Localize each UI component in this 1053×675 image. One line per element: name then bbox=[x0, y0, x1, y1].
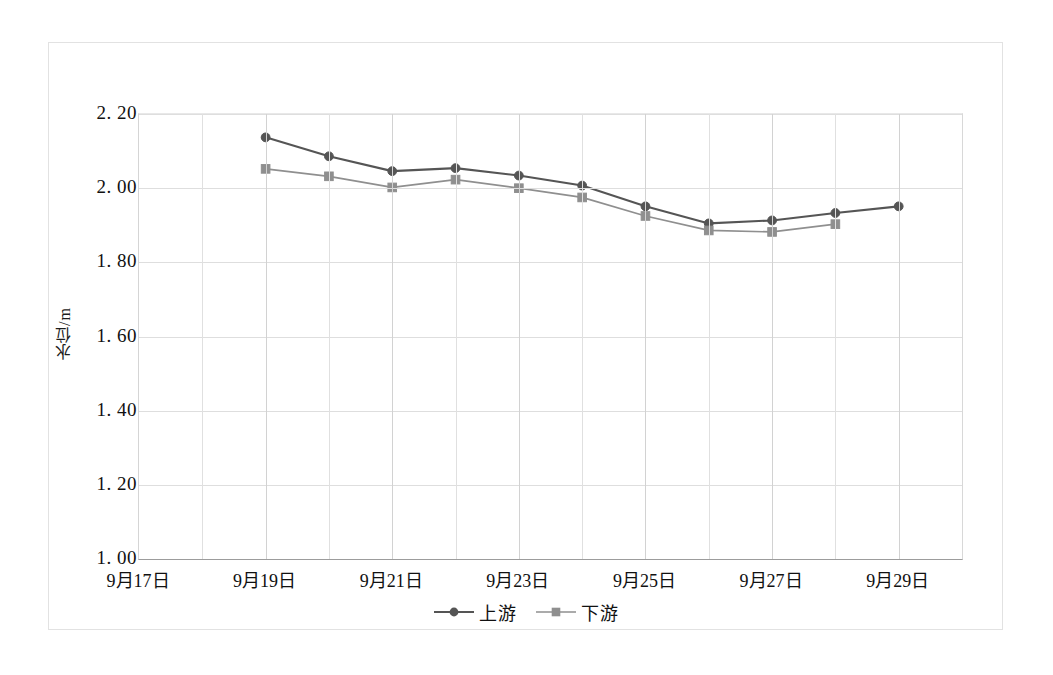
vertical-gridline bbox=[582, 114, 583, 559]
vertical-gridline bbox=[329, 114, 330, 559]
x-axis-tick-label: 9月17日 bbox=[78, 566, 198, 592]
chart-legend: 上游下游 bbox=[49, 599, 1002, 625]
vertical-gridline bbox=[456, 114, 457, 559]
vertical-gridline bbox=[835, 114, 836, 559]
x-axis-tick-label: 9月23日 bbox=[458, 566, 578, 592]
vertical-gridline bbox=[202, 114, 203, 559]
legend-label: 上游 bbox=[479, 599, 517, 625]
vertical-gridline bbox=[392, 114, 393, 559]
x-axis-tick-label: 9月27日 bbox=[711, 566, 831, 592]
y-axis-tick-label: 1. 60 bbox=[65, 325, 137, 347]
y-axis-tick-label: 2. 00 bbox=[65, 176, 137, 198]
horizontal-gridline bbox=[139, 411, 962, 412]
plot-area bbox=[138, 113, 963, 560]
legend-swatch-square bbox=[535, 604, 577, 620]
legend-item-1[interactable]: 上游 bbox=[433, 599, 517, 625]
x-axis-tick-label: 9月19日 bbox=[205, 566, 325, 592]
x-axis-tick-label: 9月21日 bbox=[331, 566, 451, 592]
vertical-gridline bbox=[899, 114, 900, 559]
horizontal-gridline bbox=[139, 188, 962, 189]
legend-swatch-circle bbox=[433, 604, 475, 620]
x-axis-tick-label: 9月29日 bbox=[838, 566, 958, 592]
horizontal-gridline bbox=[139, 262, 962, 263]
y-axis-tick-label: 1. 80 bbox=[65, 250, 137, 272]
legend-label: 下游 bbox=[581, 599, 619, 625]
legend-item-2[interactable]: 下游 bbox=[535, 599, 619, 625]
vertical-gridline bbox=[772, 114, 773, 559]
horizontal-gridline bbox=[139, 337, 962, 338]
horizontal-gridline bbox=[139, 485, 962, 486]
y-axis-tick-label: 2. 20 bbox=[65, 102, 137, 124]
vertical-gridline bbox=[519, 114, 520, 559]
vertical-gridline bbox=[266, 114, 267, 559]
y-axis-tick-label: 1. 40 bbox=[65, 399, 137, 421]
chart-figure: 水位/m 2. 202. 001. 801. 601. 401. 201. 00… bbox=[48, 42, 1003, 630]
horizontal-gridline bbox=[139, 114, 962, 115]
vertical-gridline bbox=[645, 114, 646, 559]
x-axis-tick-label: 9月25日 bbox=[584, 566, 704, 592]
y-axis-tick-labels: 2. 202. 001. 801. 601. 401. 201. 00 bbox=[61, 43, 137, 631]
y-axis-tick-label: 1. 20 bbox=[65, 473, 137, 495]
vertical-gridline bbox=[709, 114, 710, 559]
